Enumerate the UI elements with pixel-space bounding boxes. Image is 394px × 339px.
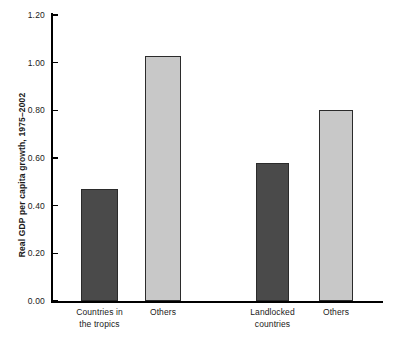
x-axis-line: [51, 301, 383, 303]
x-category-label-1-line1: Others: [118, 307, 208, 319]
bar-countries-in-the-tropics[interactable]: [81, 189, 118, 301]
y-tick-0: [51, 14, 58, 15]
y-axis-title: Real GDP per capita growth, 1975–2002: [17, 50, 27, 300]
x-category-label-3: Others: [291, 307, 381, 319]
y-tick-label-5: 0.20: [28, 248, 45, 258]
x-category-label-0-line2: the tropics: [55, 319, 145, 331]
y-tick-6: [51, 300, 58, 301]
y-tick-5: [51, 253, 58, 254]
y-tick-1: [51, 62, 58, 63]
x-category-label-2-line2: countries: [228, 319, 318, 331]
y-tick-label-0: 1.20: [28, 10, 45, 20]
x-category-label-3-line1: Others: [291, 307, 381, 319]
y-tick-3: [51, 157, 58, 158]
y-tick-label-6: 0.00: [28, 296, 45, 306]
bar-landlocked-countries[interactable]: [256, 163, 289, 301]
bar-chart: Real GDP per capita growth, 1975–2002 1.…: [0, 0, 394, 339]
bar-others-tropics[interactable]: [145, 56, 181, 301]
y-tick-label-3: 0.60: [28, 153, 45, 163]
y-tick-4: [51, 205, 58, 206]
y-tick-label-4: 0.40: [28, 201, 45, 211]
y-tick-label-1: 1.00: [28, 58, 45, 68]
y-tick-label-2: 0.80: [28, 105, 45, 115]
y-tick-2: [51, 110, 58, 111]
bar-others-landlocked[interactable]: [319, 110, 353, 301]
x-category-label-1: Others: [118, 307, 208, 319]
